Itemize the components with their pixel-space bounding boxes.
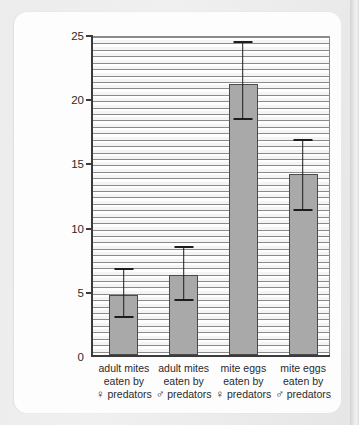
y-axis-tick-mark <box>86 292 93 294</box>
y-axis-tick-mark <box>86 163 93 165</box>
y-axis-tick-label: 15 <box>71 158 84 170</box>
error-bar-cap-upper <box>234 41 253 43</box>
error-bar-cap-lower <box>114 316 133 318</box>
y-axis-tick-label: 5 <box>78 287 84 299</box>
error-bar-cap-lower <box>234 118 253 120</box>
y-axis-tick-label: 20 <box>71 94 84 106</box>
error-bar-line <box>302 141 303 212</box>
page-edge-shadow <box>350 0 359 425</box>
y-axis-tick-label: 0 <box>78 351 84 363</box>
error-bar-cap-lower <box>174 299 193 301</box>
y-axis-tick-label: 25 <box>71 30 84 42</box>
bar[interactable] <box>229 84 258 355</box>
male-symbol-icon: ♂ <box>275 388 284 400</box>
female-symbol-icon: ♀ <box>96 388 105 400</box>
error-bar-cap-upper <box>114 268 133 270</box>
error-bar-cap-upper <box>294 139 313 141</box>
x-axis-category-label: mite eggseaten by♂ predators <box>265 362 341 400</box>
error-bar-line <box>243 43 244 120</box>
error-bar-cap-lower <box>294 209 313 211</box>
female-symbol-icon: ♀ <box>215 388 224 400</box>
y-axis-tick-mark <box>86 99 93 101</box>
y-axis-tick-label: 10 <box>71 223 84 235</box>
error-bar-cap-upper <box>174 246 193 248</box>
y-axis-tick-mark <box>86 35 93 37</box>
bar-chart-figure: mean number of mites eaten per day 05101… <box>14 12 341 413</box>
error-bar-line <box>183 248 184 301</box>
error-bar-line <box>123 270 124 318</box>
male-symbol-icon: ♂ <box>156 388 165 400</box>
y-axis-tick-mark <box>86 228 93 230</box>
plot-area: 0510152025 adult miteseaten by♀ predator… <box>91 36 330 357</box>
